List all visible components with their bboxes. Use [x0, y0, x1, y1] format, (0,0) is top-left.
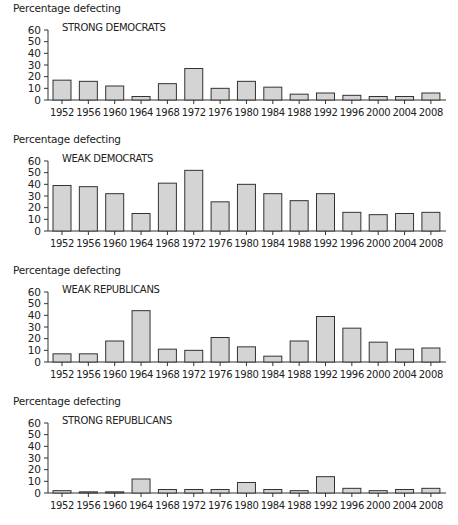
x-tick-label: 1996 [340, 369, 364, 380]
bar [237, 184, 255, 231]
y-tick-label: 40 [28, 309, 41, 321]
x-tick-label: 1980 [234, 107, 258, 118]
x-tick-label: 2004 [392, 500, 416, 511]
y-tick-label: 20 [28, 201, 41, 213]
y-tick-label: 60 [28, 155, 41, 167]
panel-weak-republicans: Percentage defecting WEAK REPUBLICANS 01… [0, 262, 458, 392]
y-tick-label: 40 [28, 440, 41, 452]
x-tick-label: 1964 [129, 238, 153, 249]
bar [264, 87, 282, 100]
x-tick-label: 1984 [261, 238, 285, 249]
panel-strong-republicans: Percentage defecting STRONG REPUBLICANS … [0, 393, 458, 523]
bar [264, 356, 282, 362]
bar [158, 349, 176, 362]
x-tick-label: 1984 [261, 500, 285, 511]
panel-strong-democrats: Percentage defecting STRONG DEMOCRATS 01… [0, 0, 458, 130]
x-tick-label: 1960 [103, 238, 127, 249]
x-tick-label: 2000 [366, 107, 390, 118]
y-tick-label: 30 [28, 452, 41, 464]
x-tick-label: 2000 [366, 369, 390, 380]
bar [237, 483, 255, 494]
x-tick-label: 1952 [50, 107, 74, 118]
bar [185, 490, 203, 494]
bar [211, 88, 229, 100]
bar-chart: 0102030405060195219561960196419681972197… [0, 262, 458, 392]
x-tick-label: 1988 [287, 500, 311, 511]
bar [290, 491, 308, 493]
x-tick-label: 1988 [287, 107, 311, 118]
bar [53, 80, 71, 100]
bar [343, 212, 361, 231]
bar [185, 69, 203, 101]
x-tick-label: 1972 [182, 500, 206, 511]
y-tick-label: 40 [28, 178, 41, 190]
x-tick-label: 1976 [208, 238, 232, 249]
x-tick-label: 2004 [392, 238, 416, 249]
y-tick-label: 50 [28, 166, 41, 178]
bar [211, 202, 229, 231]
bar [158, 490, 176, 494]
bar [106, 341, 124, 362]
x-tick-label: 1992 [313, 238, 337, 249]
x-tick-label: 1968 [155, 500, 179, 511]
y-tick-label: 10 [28, 344, 41, 356]
bar [317, 477, 335, 493]
x-tick-label: 1992 [313, 107, 337, 118]
bar [132, 214, 150, 232]
x-tick-label: 1952 [50, 238, 74, 249]
bar [290, 94, 308, 100]
bar [290, 341, 308, 362]
x-tick-label: 1952 [50, 369, 74, 380]
y-tick-label: 50 [28, 428, 41, 440]
x-tick-label: 1972 [182, 238, 206, 249]
panel-weak-democrats: Percentage defecting WEAK DEMOCRATS 0102… [0, 131, 458, 261]
bar [396, 97, 414, 101]
x-tick-label: 1956 [76, 369, 100, 380]
bar [158, 183, 176, 231]
x-tick-label: 1960 [103, 500, 127, 511]
x-tick-label: 1964 [129, 107, 153, 118]
bar [422, 488, 440, 493]
bar [185, 350, 203, 362]
bar [290, 201, 308, 231]
x-tick-label: 1996 [340, 107, 364, 118]
x-tick-label: 1968 [155, 107, 179, 118]
y-tick-label: 20 [28, 332, 41, 344]
bar [79, 187, 97, 231]
x-tick-label: 2008 [419, 369, 443, 380]
bar [106, 86, 124, 100]
y-tick-label: 50 [28, 35, 41, 47]
y-tick-label: 10 [28, 475, 41, 487]
bar [106, 194, 124, 231]
x-tick-label: 1960 [103, 369, 127, 380]
bar [422, 212, 440, 231]
x-tick-label: 1968 [155, 238, 179, 249]
x-tick-label: 2000 [366, 500, 390, 511]
bar [237, 81, 255, 100]
y-tick-label: 30 [28, 321, 41, 333]
bar [79, 81, 97, 100]
y-tick-label: 10 [28, 82, 41, 94]
x-tick-label: 1960 [103, 107, 127, 118]
x-tick-label: 1972 [182, 107, 206, 118]
bar [343, 328, 361, 362]
x-tick-label: 1972 [182, 369, 206, 380]
bar [422, 93, 440, 100]
y-tick-label: 0 [34, 94, 41, 106]
x-tick-label: 1956 [76, 107, 100, 118]
bar [369, 491, 387, 493]
bar [132, 97, 150, 101]
x-tick-label: 1992 [313, 369, 337, 380]
y-tick-label: 40 [28, 47, 41, 59]
bar [211, 490, 229, 494]
bar [343, 488, 361, 493]
x-tick-label: 1996 [340, 500, 364, 511]
y-tick-label: 0 [34, 356, 41, 368]
x-tick-label: 1996 [340, 238, 364, 249]
x-tick-label: 2004 [392, 107, 416, 118]
x-tick-label: 1976 [208, 500, 232, 511]
y-tick-label: 50 [28, 297, 41, 309]
bar [369, 97, 387, 101]
x-tick-label: 2008 [419, 500, 443, 511]
bar [79, 354, 97, 362]
